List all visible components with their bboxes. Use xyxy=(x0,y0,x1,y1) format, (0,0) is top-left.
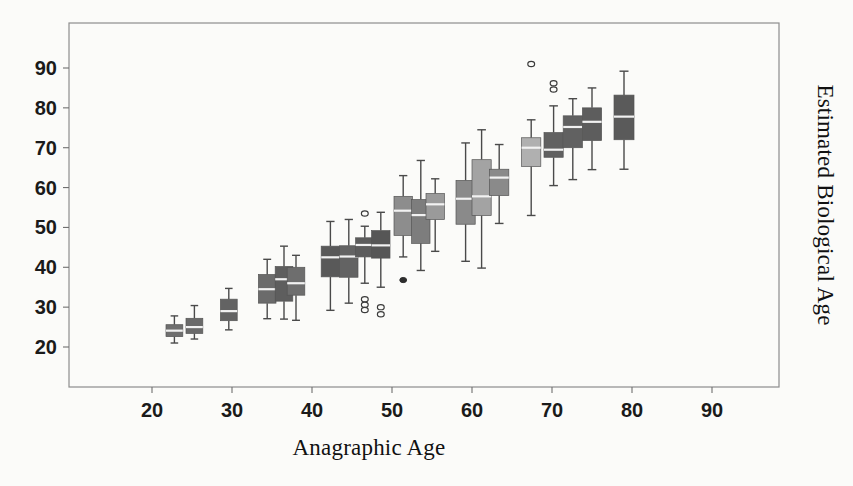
x-axis-title: Anagraphic Age xyxy=(293,435,446,460)
x-tick-label: 90 xyxy=(701,399,723,421)
y-tick-label: 20 xyxy=(35,336,57,358)
box-iqr xyxy=(544,133,563,158)
box-iqr xyxy=(287,267,305,295)
y-tick-label: 80 xyxy=(35,97,57,119)
box-iqr xyxy=(220,299,237,321)
chart-figure: 20304050607080902030405060708090Anagraph… xyxy=(0,0,853,486)
box-iqr xyxy=(563,116,582,148)
box-iqr xyxy=(582,108,601,141)
y-tick-label: 30 xyxy=(35,296,57,318)
x-tick-label: 70 xyxy=(541,399,563,421)
box-iqr xyxy=(394,196,412,235)
boxplot-chart: 20304050607080902030405060708090Anagraph… xyxy=(0,0,853,486)
x-tick-label: 50 xyxy=(381,399,403,421)
x-tick-label: 30 xyxy=(221,399,243,421)
outlier-point-0 xyxy=(400,277,407,282)
box-iqr xyxy=(340,246,358,277)
box-iqr xyxy=(522,138,541,167)
y-tick-label: 60 xyxy=(35,177,57,199)
x-tick-label: 40 xyxy=(301,399,323,421)
y-axis-title: Estimated Biological Age xyxy=(813,84,838,325)
y-tick-label: 70 xyxy=(35,137,57,159)
box-iqr xyxy=(321,246,339,277)
box-iqr xyxy=(186,318,203,333)
x-tick-label: 80 xyxy=(621,399,643,421)
box-iqr xyxy=(490,169,509,195)
box-iqr xyxy=(426,194,444,220)
y-tick-label: 90 xyxy=(35,57,57,79)
x-tick-label: 20 xyxy=(141,399,163,421)
y-tick-label: 50 xyxy=(35,216,57,238)
box-iqr xyxy=(356,238,374,257)
x-tick-label: 60 xyxy=(461,399,483,421)
box-iqr xyxy=(472,160,491,216)
y-tick-label: 40 xyxy=(35,256,57,278)
